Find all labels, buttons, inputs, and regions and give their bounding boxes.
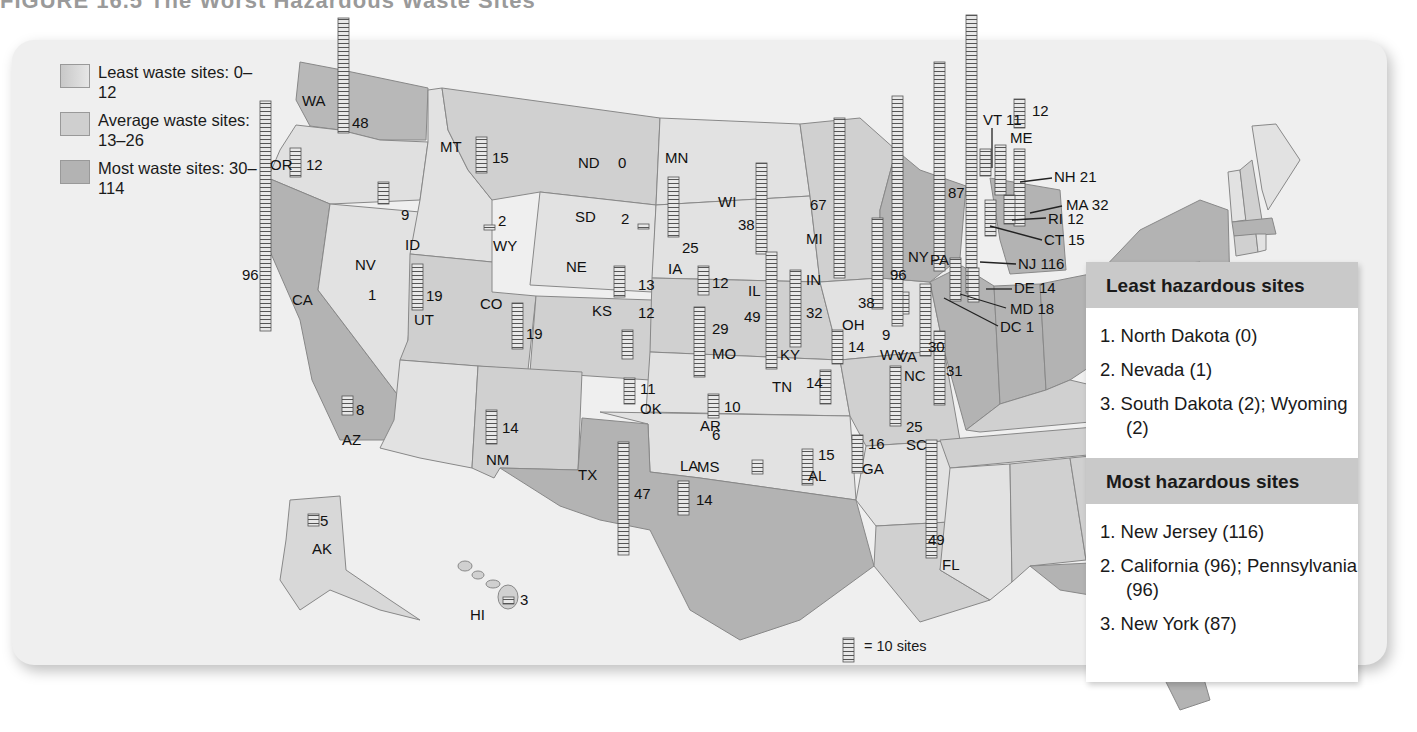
svg-text:NM: NM bbox=[486, 451, 509, 468]
svg-text:MI: MI bbox=[806, 230, 823, 247]
svg-text:31: 31 bbox=[946, 362, 963, 379]
svg-text:CA: CA bbox=[292, 291, 313, 308]
svg-text:OR: OR bbox=[270, 156, 293, 173]
svg-text:NJ 116: NJ 116 bbox=[1018, 255, 1064, 272]
svg-text:47: 47 bbox=[634, 485, 651, 502]
least-item-3: 3. South Dakota (2); Wyoming (2) bbox=[1100, 392, 1358, 440]
svg-text:NY: NY bbox=[908, 248, 929, 265]
svg-text:LA: LA bbox=[680, 457, 698, 474]
svg-text:CO: CO bbox=[480, 295, 503, 312]
svg-text:RI 12: RI 12 bbox=[1048, 210, 1084, 227]
svg-text:5: 5 bbox=[320, 512, 328, 529]
swatch-least bbox=[60, 64, 90, 88]
svg-text:38: 38 bbox=[858, 294, 875, 311]
svg-text:KY: KY bbox=[780, 346, 800, 363]
svg-text:1: 1 bbox=[368, 286, 376, 303]
svg-text:WA: WA bbox=[302, 92, 326, 109]
svg-text:29: 29 bbox=[712, 320, 729, 337]
svg-text:96: 96 bbox=[242, 266, 259, 283]
svg-text:15: 15 bbox=[492, 149, 509, 166]
svg-text:13: 13 bbox=[638, 276, 655, 293]
svg-text:UT: UT bbox=[414, 311, 434, 328]
svg-text:14: 14 bbox=[696, 491, 713, 508]
state-CO bbox=[530, 296, 652, 380]
svg-text:48: 48 bbox=[352, 114, 369, 131]
svg-text:11: 11 bbox=[640, 380, 656, 397]
state-AK bbox=[280, 496, 420, 620]
svg-text:ME: ME bbox=[1010, 129, 1033, 146]
svg-text:FL: FL bbox=[942, 556, 960, 573]
state-ME bbox=[1252, 124, 1300, 210]
svg-text:DE 14: DE 14 bbox=[1014, 279, 1056, 296]
svg-text:MD 18: MD 18 bbox=[1010, 300, 1054, 317]
svg-text:OH: OH bbox=[842, 316, 865, 333]
svg-text:6: 6 bbox=[712, 426, 720, 443]
svg-text:12: 12 bbox=[712, 274, 729, 291]
svg-text:49: 49 bbox=[744, 308, 761, 325]
svg-text:25: 25 bbox=[682, 239, 699, 256]
svg-text:14: 14 bbox=[848, 338, 865, 355]
svg-text:3: 3 bbox=[520, 591, 528, 608]
svg-text:96: 96 bbox=[890, 266, 907, 283]
svg-text:16: 16 bbox=[868, 435, 885, 452]
most-list: 1. New Jersey (116) 2. California (96); … bbox=[1086, 504, 1358, 654]
svg-text:NC: NC bbox=[904, 367, 926, 384]
most-item-2: 2. California (96); Pennsylvania (96) bbox=[1100, 554, 1358, 602]
svg-text:OK: OK bbox=[640, 400, 662, 417]
swatch-average bbox=[60, 112, 90, 136]
svg-text:8: 8 bbox=[356, 401, 364, 418]
svg-text:WI: WI bbox=[718, 193, 736, 210]
svg-text:AK: AK bbox=[312, 540, 332, 557]
most-item-3: 3. New York (87) bbox=[1100, 612, 1358, 636]
svg-text:12: 12 bbox=[306, 156, 323, 173]
svg-text:19: 19 bbox=[526, 325, 543, 342]
svg-text:WY: WY bbox=[493, 237, 517, 254]
svg-text:VT 11: VT 11 bbox=[983, 111, 1022, 128]
least-list: 1. North Dakota (0) 2. Nevada (1) 3. Sou… bbox=[1086, 308, 1358, 458]
svg-text:MN: MN bbox=[665, 149, 688, 166]
svg-text:AZ: AZ bbox=[342, 431, 361, 448]
svg-text:10: 10 bbox=[724, 398, 741, 415]
svg-text:32: 32 bbox=[806, 304, 823, 321]
svg-text:TX: TX bbox=[578, 466, 597, 483]
least-header: Least hazardous sites bbox=[1086, 262, 1358, 308]
svg-text:12: 12 bbox=[638, 304, 655, 321]
rankings-box: Least hazardous sites 1. North Dakota (0… bbox=[1086, 262, 1358, 682]
svg-text:30: 30 bbox=[928, 338, 945, 355]
svg-text:WV: WV bbox=[880, 346, 904, 363]
svg-text:TN: TN bbox=[772, 378, 792, 395]
svg-text:15: 15 bbox=[818, 446, 835, 463]
most-header: Most hazardous sites bbox=[1086, 458, 1358, 504]
svg-text:MO: MO bbox=[712, 345, 736, 362]
svg-text:MS: MS bbox=[697, 458, 720, 475]
svg-text:NE: NE bbox=[566, 258, 587, 275]
legend-item-most: Most waste sites: 30–114 bbox=[60, 158, 263, 198]
state-RI bbox=[1256, 234, 1266, 252]
svg-text:SC: SC bbox=[906, 436, 927, 453]
swatch-most bbox=[60, 160, 90, 184]
least-item-2: 2. Nevada (1) bbox=[1100, 358, 1358, 382]
legend-item-average: Average waste sites: 13–26 bbox=[60, 110, 263, 150]
svg-text:2: 2 bbox=[498, 212, 506, 229]
svg-text:IN: IN bbox=[806, 271, 821, 288]
svg-text:AL: AL bbox=[808, 467, 826, 484]
svg-text:GA: GA bbox=[862, 460, 884, 477]
svg-text:HI: HI bbox=[470, 606, 485, 623]
svg-text:12: 12 bbox=[1032, 102, 1049, 119]
svg-text:PA: PA bbox=[930, 251, 949, 268]
state-CT bbox=[1234, 234, 1258, 256]
svg-text:IA: IA bbox=[668, 260, 682, 277]
svg-text:SD: SD bbox=[575, 208, 596, 225]
legend-label-least: Least waste sites: 0–12 bbox=[98, 62, 263, 102]
svg-text:14: 14 bbox=[806, 374, 823, 391]
legend-label-most: Most waste sites: 30–114 bbox=[98, 158, 263, 198]
scale-key: = 10 sites bbox=[848, 638, 926, 654]
svg-text:CT 15: CT 15 bbox=[1044, 231, 1085, 248]
least-item-1: 1. North Dakota (0) bbox=[1100, 324, 1358, 348]
svg-text:19: 19 bbox=[426, 287, 443, 304]
svg-text:ID: ID bbox=[405, 236, 420, 253]
svg-text:2: 2 bbox=[621, 210, 629, 227]
scale-key-label: = 10 sites bbox=[864, 638, 926, 654]
svg-text:87: 87 bbox=[948, 184, 965, 201]
svg-text:14: 14 bbox=[502, 419, 519, 436]
